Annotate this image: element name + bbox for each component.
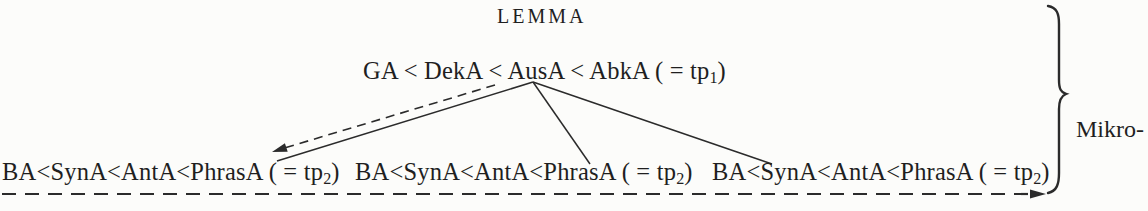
bottom-formula-1-suffix: ) — [331, 158, 339, 185]
branch-line-left — [277, 82, 533, 161]
bottom-formula-1: BA<SynA<AntA<PhrasA ( = tp2) — [2, 158, 340, 188]
bottom-formula-1-subscript: 2 — [323, 170, 331, 187]
branch-line-middle — [533, 82, 590, 164]
bottom-formula-3: BA<SynA<AntA<PhrasA ( = tp2) — [712, 158, 1050, 188]
bottom-formula-3-suffix: ) — [1041, 158, 1049, 185]
microstructure-label-line-1: Mikro- — [1076, 114, 1144, 145]
curly-brace-icon — [1048, 6, 1066, 193]
top-formula-body: GA < DekA < AusA < AbkA ( = tp — [363, 57, 709, 84]
microstructure-label-line-2: struk- — [1076, 207, 1144, 211]
branch-line-right — [533, 82, 772, 164]
bottom-formula-3-subscript: 2 — [1033, 170, 1041, 187]
microstructure-label: Mikro- struk- tur — [1076, 52, 1144, 211]
top-formula: GA < DekA < AusA < AbkA ( = tp1) — [363, 57, 726, 87]
arrowhead-right-icon — [1030, 190, 1046, 199]
arrowhead-left-icon — [272, 143, 288, 152]
bottom-formula-3-body: BA<SynA<AntA<PhrasA ( = tp — [712, 158, 1033, 185]
lemma-title: LEMMA — [497, 5, 586, 28]
diagram-canvas: LEMMA GA < DekA < AusA < AbkA ( = tp1) B… — [0, 0, 1148, 211]
bottom-formula-2-suffix: ) — [684, 158, 692, 185]
bottom-formula-2-body: BA<SynA<AntA<PhrasA ( = tp — [355, 158, 676, 185]
dashed-diagonal-line — [281, 85, 495, 149]
bottom-formula-2-subscript: 2 — [676, 170, 684, 187]
bottom-formula-2: BA<SynA<AntA<PhrasA ( = tp2) — [355, 158, 693, 188]
bottom-formula-1-body: BA<SynA<AntA<PhrasA ( = tp — [2, 158, 323, 185]
top-formula-suffix: ) — [718, 57, 726, 84]
top-formula-subscript: 1 — [709, 69, 717, 86]
